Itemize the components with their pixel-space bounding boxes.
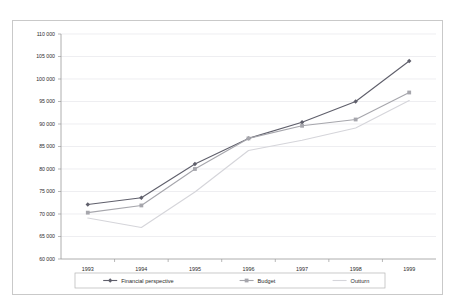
x-tick-label: 1998 bbox=[350, 266, 362, 272]
x-tick-label: 1993 bbox=[82, 266, 94, 272]
y-tick-label: 90 000 bbox=[39, 121, 55, 127]
legend-marker-square-icon bbox=[245, 279, 249, 283]
series-line-financial-perspective bbox=[88, 61, 409, 205]
x-tick-label: 1997 bbox=[296, 266, 308, 272]
x-tick-label: 1995 bbox=[189, 266, 201, 272]
line-chart-canvas: 60 00065 00070 00075 00080 00085 00090 0… bbox=[13, 21, 444, 296]
x-tick-label: 1999 bbox=[403, 266, 415, 272]
data-point-marker bbox=[407, 91, 411, 95]
y-tick-label: 110 000 bbox=[37, 31, 55, 37]
data-point-marker bbox=[193, 167, 197, 171]
data-series bbox=[86, 59, 412, 228]
y-tick-label: 105 000 bbox=[36, 53, 55, 59]
y-tick-label: 70 000 bbox=[39, 211, 55, 217]
y-tick-label: 100 000 bbox=[36, 76, 55, 82]
x-axis-tick-labels: 1993199419951996199719981999 bbox=[82, 259, 415, 272]
data-point-marker bbox=[247, 137, 251, 141]
y-axis-tick-labels: 60 00065 00070 00075 00080 00085 00090 0… bbox=[36, 31, 55, 262]
x-tick-label: 1996 bbox=[243, 266, 255, 272]
chart-figure: 60 00065 00070 00075 00080 00085 00090 0… bbox=[12, 20, 443, 295]
y-tick-label: 85 000 bbox=[39, 143, 55, 149]
data-point-marker bbox=[86, 202, 90, 206]
data-point-marker bbox=[139, 204, 143, 208]
data-point-marker bbox=[300, 124, 304, 128]
data-point-marker bbox=[86, 211, 90, 215]
y-tick-label: 75 000 bbox=[39, 188, 55, 194]
y-tick-label: 95 000 bbox=[39, 98, 55, 104]
gridlines bbox=[58, 34, 436, 259]
legend-label: Financial perspective bbox=[121, 278, 174, 284]
y-tick-label: 80 000 bbox=[39, 166, 55, 172]
y-tick-label: 60 000 bbox=[39, 256, 55, 262]
legend-label: Budget bbox=[258, 278, 276, 284]
series-line-budget bbox=[88, 93, 409, 213]
x-tick-label: 1994 bbox=[135, 266, 147, 272]
series-line-outturn bbox=[88, 101, 409, 228]
data-point-marker bbox=[354, 118, 358, 122]
legend-label: Outturn bbox=[351, 278, 370, 284]
y-tick-label: 65 000 bbox=[39, 233, 55, 239]
chart-legend: Financial perspectiveBudgetOutturn bbox=[75, 273, 385, 288]
